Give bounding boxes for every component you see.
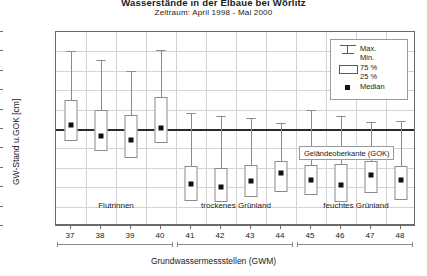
group-bracket xyxy=(297,244,412,245)
group-bracket xyxy=(57,244,172,245)
group-label-flutrinnen: Flutrinnen xyxy=(98,201,134,210)
x-tick-mark xyxy=(100,225,101,229)
x-tick-label-42: 42 xyxy=(216,231,225,240)
box-iqr xyxy=(155,97,168,143)
median-marker xyxy=(309,178,314,183)
x-tick-label-40: 40 xyxy=(156,231,165,240)
boxplot-41 xyxy=(191,32,192,224)
median-marker xyxy=(399,178,404,183)
box-iqr xyxy=(275,161,288,192)
median-marker xyxy=(99,133,104,138)
boxplot-37 xyxy=(71,32,72,224)
whisker-upper xyxy=(161,50,162,97)
whisker-upper xyxy=(401,121,402,166)
x-tick-label-41: 41 xyxy=(186,231,195,240)
boxplot-43 xyxy=(251,32,252,224)
whisker-upper xyxy=(71,51,72,100)
legend-label-min: Min. xyxy=(360,53,374,62)
gridline-v xyxy=(296,32,297,224)
whisker-cap-min xyxy=(127,71,136,72)
x-tick-mark xyxy=(340,225,341,229)
y-tick-mark xyxy=(0,31,3,32)
group-label-grünland: feuchtes Grünland xyxy=(323,201,388,210)
chart-figure: Wasserstände in der Elbaue bei Wörlitz Z… xyxy=(0,0,427,276)
median-marker xyxy=(249,179,254,184)
gridline-v xyxy=(176,32,177,224)
boxplot-45 xyxy=(311,32,312,224)
gridline-v xyxy=(326,32,327,224)
whisker-cap-min xyxy=(337,116,346,117)
legend-item-median: Median xyxy=(336,82,402,93)
x-tick-mark xyxy=(370,225,371,229)
whisker-cap-min xyxy=(187,113,196,114)
whisker-upper xyxy=(281,123,282,161)
gridline-h xyxy=(56,110,414,111)
whisker-upper xyxy=(251,118,252,165)
x-axis xyxy=(55,225,415,226)
boxplot-42 xyxy=(221,32,222,224)
whisker-cap-min xyxy=(307,110,316,111)
chart-title: Wasserstände in der Elbaue bei Wörlitz xyxy=(0,0,427,8)
gridline-v xyxy=(206,32,207,224)
x-tick-label-46: 46 xyxy=(336,231,345,240)
x-tick-mark xyxy=(250,225,251,229)
whisker-cap-min xyxy=(367,122,376,123)
group-bracket xyxy=(177,244,292,245)
x-tick-mark xyxy=(70,225,71,229)
x-tick-mark xyxy=(160,225,161,229)
x-tick-mark xyxy=(190,225,191,229)
legend-label-p25: 25 % xyxy=(360,72,377,81)
gridline-v xyxy=(146,32,147,224)
median-marker xyxy=(369,172,374,177)
y-tick-mark xyxy=(0,206,3,207)
plot-area: Flutrinnentrockenes Grünlandfeuchtes Grü… xyxy=(55,31,415,225)
y-tick-mark xyxy=(0,186,3,187)
legend-label-max: Max. xyxy=(360,44,376,53)
box-iqr xyxy=(95,110,108,152)
whisker-cap-min xyxy=(157,50,166,51)
whisker-cap-min xyxy=(397,121,406,122)
median-marker xyxy=(219,185,224,190)
x-tick-label-44: 44 xyxy=(276,231,285,240)
boxplot-39 xyxy=(131,32,132,224)
y-axis-label: GW-Stand u.GOK [cm] xyxy=(11,99,21,185)
whisker-upper xyxy=(191,113,192,166)
boxplot-40 xyxy=(161,32,162,224)
boxplot-38 xyxy=(101,32,102,224)
y-tick-mark xyxy=(0,89,3,90)
median-marker xyxy=(129,137,134,142)
whisker-cap-min xyxy=(97,60,106,61)
x-tick-mark xyxy=(400,225,401,229)
gridline-h xyxy=(56,187,414,188)
gridline-h xyxy=(56,168,414,169)
whisker-upper xyxy=(101,60,102,109)
median-marker xyxy=(69,123,74,128)
x-tick-label-39: 39 xyxy=(126,231,135,240)
x-tick-label-43: 43 xyxy=(246,231,255,240)
x-tick-label-37: 37 xyxy=(66,231,75,240)
group-label-grünland: trockenes Grünland xyxy=(201,201,271,210)
whisker-cap-min xyxy=(67,51,76,52)
legend-item-maxmin: Max. Min. xyxy=(336,44,402,62)
minmax-whisker-icon xyxy=(336,44,360,55)
legend-label-median: Median xyxy=(360,82,385,91)
x-tick-label-47: 47 xyxy=(366,231,375,240)
gridline-v xyxy=(86,32,87,224)
x-tick-mark xyxy=(130,225,131,229)
whisker-upper xyxy=(131,71,132,116)
y-tick-mark xyxy=(0,50,3,51)
x-tick-label-45: 45 xyxy=(306,231,315,240)
chart-subtitle: Zeitraum: April 1998 - Mai 2000 xyxy=(0,8,427,17)
median-marker-icon xyxy=(336,82,360,93)
whisker-cap-min xyxy=(247,118,256,119)
whisker-cap-min xyxy=(277,123,286,124)
gok-zero-line xyxy=(56,129,414,131)
y-tick-mark xyxy=(0,70,3,71)
y-tick-mark xyxy=(0,225,3,226)
chart-legend: Max. Min. 75 % 25 % Median xyxy=(330,39,408,100)
whisker-upper xyxy=(221,116,222,167)
median-marker xyxy=(279,170,284,175)
x-tick-label-48: 48 xyxy=(396,231,405,240)
gridline-v xyxy=(116,32,117,224)
y-tick-mark xyxy=(0,167,3,168)
